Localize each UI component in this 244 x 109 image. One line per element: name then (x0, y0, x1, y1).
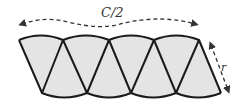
half-circumference-arrow (22, 19, 195, 27)
half-circumference-label: C/2 (101, 5, 124, 20)
sector-parallelogram-diagram: C/2 r (0, 0, 244, 109)
radius-label: r (221, 61, 227, 74)
